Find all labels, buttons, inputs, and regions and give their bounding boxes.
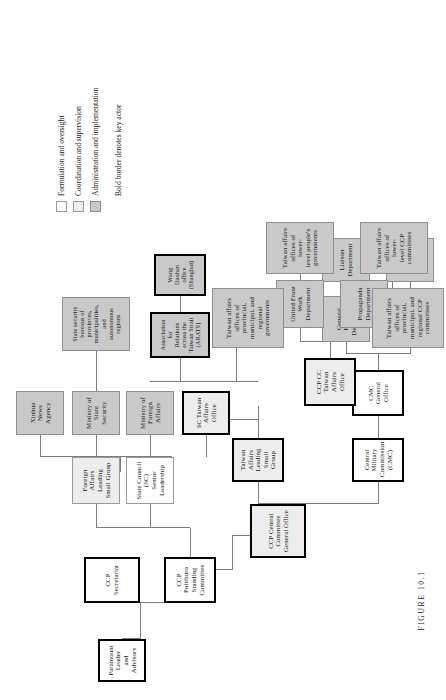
node-state-council[interactable]: State Council (SC)Senior Leadership: [126, 457, 174, 504]
node-cmc-general-office[interactable]: CMCGeneral Office: [352, 370, 404, 416]
connector: [180, 381, 206, 382]
node-taiwan-affairs-lsg[interactable]: Taiwan Affairs LeadingSmall Group: [232, 438, 284, 482]
node-ccp-cc-general-office[interactable]: CCP Central CommitteeGeneral Office: [250, 504, 306, 558]
legend-label-coordination: Coordination and supervision: [74, 106, 83, 196]
connector: [120, 457, 121, 472]
node-central-military-commission[interactable]: Central MilitaryCommission (CMC): [352, 438, 404, 482]
connector: [96, 351, 97, 391]
connector: [96, 527, 190, 528]
node-ccp-politburo-standing-committee[interactable]: CCP Politburo StandingCommittee: [164, 557, 216, 603]
legend-label-administration: Administration and implementation: [91, 88, 100, 196]
legend-swatch-formulation-icon: [56, 201, 67, 212]
connector: [180, 296, 181, 312]
connector: [150, 504, 151, 528]
connector: [96, 504, 97, 528]
connector: [216, 569, 232, 570]
connector: [150, 381, 180, 382]
connector: [236, 348, 237, 382]
node-ccp-secretariat[interactable]: CCP Secretariat: [84, 557, 140, 603]
figure-caption-text: FIGURE 10.1: [417, 570, 426, 630]
node-tao-provincial-governments[interactable]: Taiwan affairsoffices of provincial,muni…: [212, 288, 284, 348]
legend-swatch-coordination-icon: [73, 201, 84, 212]
node-sc-taiwan-affairs-office[interactable]: SC Taiwan AffairsOffice: [182, 391, 230, 435]
figure-caption: FIGURE 10.1: [406, 500, 436, 700]
connector: [378, 354, 379, 370]
connector: [258, 420, 259, 438]
legend-swatch-administration-icon: [90, 201, 101, 212]
node-tao-lower-level-governments[interactable]: Taiwan affairsoffices of lower-level peo…: [266, 222, 334, 274]
connector: [232, 536, 233, 570]
legend-item-coordination: Coordination and supervision: [73, 106, 84, 212]
legend-label-formulation: Formulation and oversight: [57, 115, 66, 196]
node-ministry-of-state-security[interactable]: Ministry ofState Security: [72, 391, 120, 435]
connector: [150, 435, 151, 457]
node-foreign-affairs-lsg[interactable]: Foreign Affairs LeadingSmall Group: [72, 457, 120, 504]
connector: [96, 435, 97, 457]
connector: [206, 435, 207, 457]
connector: [378, 482, 379, 504]
connector: [346, 342, 347, 354]
connector: [258, 406, 259, 420]
connector: [300, 328, 301, 342]
legend-note-bold-border: Bold border denotes key actor: [114, 104, 123, 196]
node-state-security-bureaus[interactable]: State securitybureaus of provinces,munic…: [62, 297, 130, 351]
connector: [40, 435, 41, 457]
node-arats[interactable]: Association forRelations across theTaiwa…: [150, 312, 210, 358]
node-tao-lower-level-ccp-committees[interactable]: Taiwan affairsoffices of lower-level CCP…: [360, 222, 428, 274]
node-tao-provincial-ccp-committees[interactable]: Taiwan affairsoffices of provincial,muni…: [372, 288, 444, 348]
legend-item-administration: Administration and implementation: [90, 88, 101, 212]
connector: [206, 381, 258, 382]
node-paramount-leader[interactable]: Paramount Leaderand Advisors: [98, 639, 146, 682]
connector: [378, 416, 379, 438]
connector: [180, 358, 181, 382]
legend: Formulation and oversight Coordination a…: [56, 12, 166, 212]
connector: [330, 342, 331, 358]
connector: [258, 482, 259, 504]
legend-item-formulation: Formulation and oversight: [56, 115, 67, 212]
node-xinhua-news-agency[interactable]: XinhuaNews Agency: [16, 391, 64, 435]
connector: [346, 353, 410, 354]
node-ministry-of-foreign-affairs[interactable]: Ministry ofForeign Affairs: [126, 391, 174, 435]
connector: [140, 603, 141, 639]
node-ccp-cc-taiwan-affairs-office[interactable]: CCP CC TaiwanAffairs Office: [304, 358, 356, 406]
connector: [232, 535, 250, 536]
node-wang-daohan-office[interactable]: Wang Daohan office(Shanghai): [154, 254, 206, 296]
